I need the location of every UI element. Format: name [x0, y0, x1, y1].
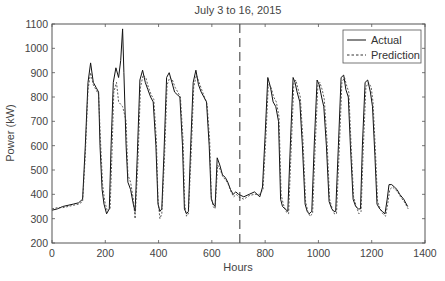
x-tick-label: 0	[49, 247, 55, 259]
x-tick-label: 800	[256, 247, 274, 259]
y-tick-label: 500	[30, 164, 48, 176]
y-tick-label: 700	[30, 115, 48, 127]
legend-label-actual: Actual	[371, 34, 402, 46]
legend: Actual Prediction	[343, 30, 421, 63]
series-prediction	[52, 73, 408, 219]
x-axis-label: Hours	[223, 261, 253, 273]
y-tick-label: 600	[30, 140, 48, 152]
y-tick-label: 300	[30, 213, 48, 225]
x-tick-label: 1400	[413, 247, 437, 259]
y-tick-label: 200	[30, 237, 48, 249]
power-chart: July 3 to 16, 2015 020040060080010001200…	[0, 0, 445, 281]
y-tick-label: 1000	[25, 42, 49, 54]
y-tick-label: 900	[30, 67, 48, 79]
x-tick-label: 1000	[307, 247, 331, 259]
y-axis-label: Power (kW)	[4, 104, 16, 161]
x-tick-label: 1200	[360, 247, 384, 259]
chart-title: July 3 to 16, 2015	[195, 4, 282, 16]
x-tick-label: 400	[150, 247, 168, 259]
y-tick-label: 1100	[25, 18, 48, 30]
y-tick-label: 400	[30, 188, 48, 200]
x-tick-label: 200	[97, 247, 115, 259]
y-tick-label: 800	[30, 91, 48, 103]
legend-label-prediction: Prediction	[371, 49, 420, 61]
x-tick-label: 600	[203, 247, 221, 259]
